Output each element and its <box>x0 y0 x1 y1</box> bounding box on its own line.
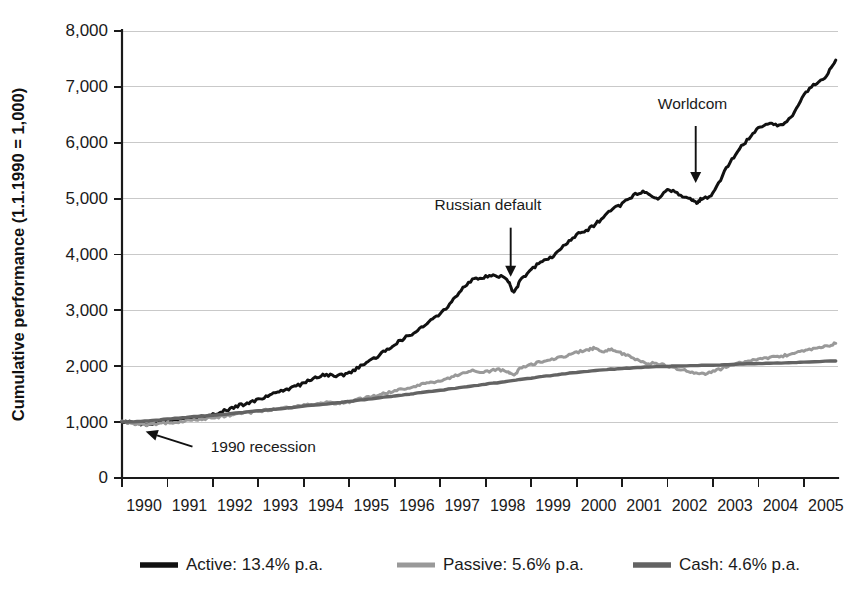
y-axis-title-text: Cumulative performance (1.1.1990 = 1,000… <box>9 88 27 421</box>
x-tick-label: 1994 <box>308 497 344 514</box>
y-tick-label: 0 <box>99 468 108 487</box>
y-tick-label: 4,000 <box>65 245 108 264</box>
x-tick-label: 2005 <box>808 497 844 514</box>
x-tick-label: 2004 <box>763 497 799 514</box>
series-line-cash <box>122 361 836 422</box>
x-tick-label: 1999 <box>535 497 571 514</box>
x-tick-label: 1990 <box>126 497 162 514</box>
y-tick-label: 1,000 <box>65 413 108 432</box>
y-tick-label: 2,000 <box>65 357 108 376</box>
y-tick-label: 5,000 <box>65 189 108 208</box>
y-axis-title: Cumulative performance (1.1.1990 = 1,000… <box>9 88 27 421</box>
x-tick-label: 1992 <box>217 497 253 514</box>
x-tick-label: 1997 <box>444 497 480 514</box>
chart-legend: Active: 13.4% p.a.Passive: 5.6% p.a.Cash… <box>140 555 800 574</box>
annotation-arrow-head <box>690 172 701 183</box>
annotation-label: Russian default <box>435 196 543 213</box>
chart-container: 01,0002,0003,0004,0005,0006,0007,0008,00… <box>0 0 847 594</box>
x-tick-label: 2000 <box>581 497 617 514</box>
annotation-arrow-shaft <box>157 435 192 446</box>
annotation-label: 1990 recession <box>211 438 316 455</box>
legend-label-active: Active: 13.4% p.a. <box>186 555 323 574</box>
y-tick-label: 6,000 <box>65 133 108 152</box>
y-tick-label: 8,000 <box>65 21 108 40</box>
chart-annotations: Russian defaultWorldcom1990 recession <box>146 95 728 454</box>
x-tick-label: 1996 <box>399 497 435 514</box>
x-tick-label: 2001 <box>626 497 662 514</box>
performance-line-chart: 01,0002,0003,0004,0005,0006,0007,0008,00… <box>0 0 847 594</box>
y-axis: 01,0002,0003,0004,0005,0006,0007,0008,00… <box>65 21 122 487</box>
x-tick-label: 1993 <box>263 497 299 514</box>
x-axis: 1990199119921993199419951996199719981999… <box>122 478 844 514</box>
annotation-arrow-head <box>146 430 159 440</box>
data-series <box>122 60 836 426</box>
x-tick-label: 2002 <box>672 497 708 514</box>
legend-label-cash: Cash: 4.6% p.a. <box>679 555 800 574</box>
x-tick-label: 1995 <box>354 497 390 514</box>
x-tick-label: 1991 <box>172 497 208 514</box>
legend-label-passive: Passive: 5.6% p.a. <box>443 555 584 574</box>
annotation-arrow-head <box>505 266 516 277</box>
y-tick-label: 3,000 <box>65 301 108 320</box>
annotation-label: Worldcom <box>658 95 727 112</box>
x-tick-label: 1998 <box>490 497 526 514</box>
y-tick-label: 7,000 <box>65 77 108 96</box>
x-tick-label: 2003 <box>717 497 753 514</box>
